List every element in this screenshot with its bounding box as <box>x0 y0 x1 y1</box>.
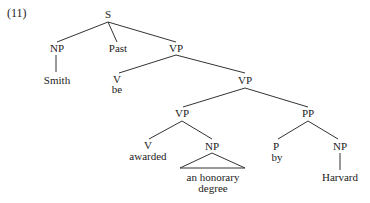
leaf-smith: Smith <box>44 75 70 86</box>
leaf-by: by <box>272 152 283 163</box>
node-s: S <box>105 9 111 20</box>
leaf-awarded: awarded <box>129 151 166 162</box>
leaf-be: be <box>112 84 122 95</box>
node-vp-top: VP <box>169 43 183 54</box>
node-past: Past <box>109 43 127 54</box>
leaf-harvard: Harvard <box>322 172 358 183</box>
node-np-agent: NP <box>333 141 347 152</box>
node-pp: PP <box>302 108 314 119</box>
tree-branches <box>0 0 370 203</box>
leaf-degree: degree <box>198 183 227 194</box>
node-vp-mid: VP <box>238 75 252 86</box>
node-np-subject: NP <box>50 43 64 54</box>
node-np-object: NP <box>205 141 219 152</box>
node-vp-low: VP <box>175 108 189 119</box>
